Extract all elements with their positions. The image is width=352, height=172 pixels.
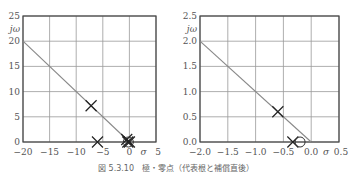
y-tick-label: 2.0: [183, 36, 198, 46]
pole-zero-charts: −20−15−10−505σ0510152025jω−2.0−1.5−1.0−0…: [0, 0, 352, 172]
y-tick-label: 10: [9, 87, 21, 97]
x-tick-label: −15: [40, 147, 59, 157]
x-tick-label: 0: [127, 147, 133, 157]
y-axis-label: jω: [185, 24, 198, 34]
x-tick-label: −1.5: [217, 147, 239, 157]
x-tick-label: −10: [67, 147, 86, 157]
x-tick-label: −1.0: [245, 147, 267, 157]
pole-marker: [272, 106, 283, 117]
x-tick-label: 0.5: [334, 147, 349, 157]
y-tick-label: 2.5: [183, 11, 198, 21]
y-tick-label: 25: [9, 11, 21, 21]
x-axis-label: σ: [141, 147, 148, 157]
y-tick-label: 1.0: [183, 87, 198, 97]
x-tick-label: −2.0: [189, 147, 211, 157]
y-tick-label: 0: [14, 137, 20, 147]
y-axis-label: jω: [8, 24, 21, 34]
y-tick-label: 1.5: [183, 61, 198, 71]
figure-caption: 図 5.3.10 極・零点（代表根と補償直後）: [98, 163, 254, 172]
y-tick-label: 5: [14, 112, 20, 122]
x-tick-label: 5: [155, 147, 161, 157]
x-axis-label: σ: [323, 147, 330, 157]
y-tick-label: 0.5: [183, 112, 198, 122]
plot-frame: [200, 16, 339, 142]
x-tick-label: −20: [14, 147, 33, 157]
y-tick-label: 0.0: [183, 137, 198, 147]
pole-marker: [86, 100, 97, 111]
y-tick-label: 15: [9, 61, 21, 71]
x-tick-label: 0.0: [304, 147, 319, 157]
plot-frame: [23, 16, 156, 142]
y-tick-label: 20: [9, 36, 21, 46]
x-tick-label: −0.5: [272, 147, 294, 157]
x-tick-label: −5: [96, 147, 110, 157]
